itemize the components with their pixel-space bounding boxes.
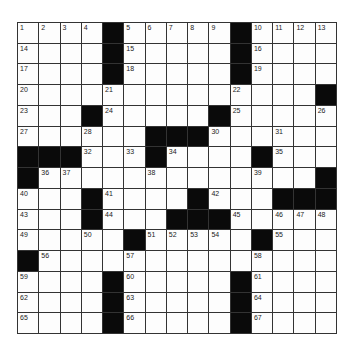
grid-cell[interactable] (61, 210, 81, 230)
grid-cell[interactable] (146, 44, 166, 64)
grid-cell[interactable] (252, 85, 272, 105)
grid-cell[interactable]: 36 (39, 168, 59, 188)
grid-cell[interactable] (294, 251, 314, 271)
grid-cell[interactable]: 33 (124, 147, 144, 167)
grid-cell[interactable] (316, 44, 336, 64)
grid-cell[interactable]: 13 (316, 23, 336, 43)
grid-cell[interactable]: 62 (18, 293, 38, 313)
grid-cell[interactable] (61, 64, 81, 84)
grid-cell[interactable] (273, 251, 293, 271)
grid-cell[interactable] (294, 147, 314, 167)
grid-cell[interactable] (167, 64, 187, 84)
grid-cell[interactable]: 24 (103, 106, 123, 126)
grid-cell[interactable] (188, 64, 208, 84)
grid-cell[interactable] (167, 168, 187, 188)
grid-cell[interactable]: 6 (146, 23, 166, 43)
grid-cell[interactable]: 49 (18, 230, 38, 250)
grid-cell[interactable] (167, 251, 187, 271)
grid-cell[interactable]: 19 (252, 64, 272, 84)
grid-cell[interactable] (146, 85, 166, 105)
grid-cell[interactable]: 7 (167, 23, 187, 43)
grid-cell[interactable]: 12 (294, 23, 314, 43)
grid-cell[interactable] (188, 251, 208, 271)
grid-cell[interactable] (273, 106, 293, 126)
grid-cell[interactable]: 56 (39, 251, 59, 271)
grid-cell[interactable] (103, 127, 123, 147)
grid-cell[interactable] (61, 44, 81, 64)
grid-cell[interactable] (146, 272, 166, 292)
grid-cell[interactable] (61, 293, 81, 313)
grid-cell[interactable] (273, 313, 293, 333)
grid-cell[interactable]: 45 (231, 210, 251, 230)
grid-cell[interactable] (61, 230, 81, 250)
grid-cell[interactable] (82, 64, 102, 84)
grid-cell[interactable]: 1 (18, 23, 38, 43)
grid-cell[interactable] (82, 272, 102, 292)
grid-cell[interactable] (39, 127, 59, 147)
grid-cell[interactable] (82, 313, 102, 333)
grid-cell[interactable] (231, 230, 251, 250)
grid-cell[interactable] (188, 293, 208, 313)
grid-cell[interactable] (209, 44, 229, 64)
grid-cell[interactable] (103, 230, 123, 250)
grid-cell[interactable] (82, 251, 102, 271)
grid-cell[interactable]: 66 (124, 313, 144, 333)
grid-cell[interactable] (188, 147, 208, 167)
grid-cell[interactable] (167, 313, 187, 333)
grid-cell[interactable] (61, 106, 81, 126)
grid-cell[interactable] (39, 106, 59, 126)
grid-cell[interactable]: 32 (82, 147, 102, 167)
grid-cell[interactable]: 10 (252, 23, 272, 43)
grid-cell[interactable] (82, 85, 102, 105)
grid-cell[interactable] (167, 189, 187, 209)
grid-cell[interactable]: 9 (209, 23, 229, 43)
grid-cell[interactable]: 11 (273, 23, 293, 43)
grid-cell[interactable] (273, 293, 293, 313)
grid-cell[interactable] (188, 106, 208, 126)
grid-cell[interactable]: 44 (103, 210, 123, 230)
grid-cell[interactable] (273, 272, 293, 292)
grid-cell[interactable] (231, 251, 251, 271)
grid-cell[interactable] (146, 293, 166, 313)
grid-cell[interactable] (61, 127, 81, 147)
grid-cell[interactable]: 48 (316, 210, 336, 230)
grid-cell[interactable]: 15 (124, 44, 144, 64)
grid-cell[interactable] (294, 313, 314, 333)
grid-cell[interactable] (146, 106, 166, 126)
grid-cell[interactable]: 8 (188, 23, 208, 43)
grid-cell[interactable]: 55 (273, 230, 293, 250)
grid-cell[interactable] (103, 251, 123, 271)
grid-cell[interactable]: 57 (124, 251, 144, 271)
grid-cell[interactable]: 65 (18, 313, 38, 333)
grid-cell[interactable]: 21 (103, 85, 123, 105)
grid-cell[interactable] (273, 44, 293, 64)
grid-cell[interactable] (124, 85, 144, 105)
grid-cell[interactable]: 67 (252, 313, 272, 333)
grid-cell[interactable] (209, 147, 229, 167)
grid-cell[interactable] (61, 85, 81, 105)
grid-cell[interactable] (82, 44, 102, 64)
grid-cell[interactable] (39, 313, 59, 333)
grid-cell[interactable] (39, 64, 59, 84)
grid-cell[interactable] (294, 44, 314, 64)
grid-cell[interactable]: 51 (146, 230, 166, 250)
grid-cell[interactable] (61, 313, 81, 333)
grid-cell[interactable] (61, 189, 81, 209)
grid-cell[interactable] (316, 127, 336, 147)
grid-cell[interactable]: 18 (124, 64, 144, 84)
grid-cell[interactable]: 43 (18, 210, 38, 230)
grid-cell[interactable] (294, 230, 314, 250)
grid-cell[interactable]: 3 (61, 23, 81, 43)
grid-cell[interactable] (39, 44, 59, 64)
grid-cell[interactable]: 58 (252, 251, 272, 271)
grid-cell[interactable]: 28 (82, 127, 102, 147)
grid-cell[interactable] (146, 64, 166, 84)
grid-cell[interactable]: 30 (209, 127, 229, 147)
grid-cell[interactable]: 22 (231, 85, 251, 105)
grid-cell[interactable]: 53 (188, 230, 208, 250)
grid-cell[interactable]: 41 (103, 189, 123, 209)
grid-cell[interactable] (124, 210, 144, 230)
grid-cell[interactable] (273, 64, 293, 84)
grid-cell[interactable]: 34 (167, 147, 187, 167)
grid-cell[interactable]: 25 (231, 106, 251, 126)
